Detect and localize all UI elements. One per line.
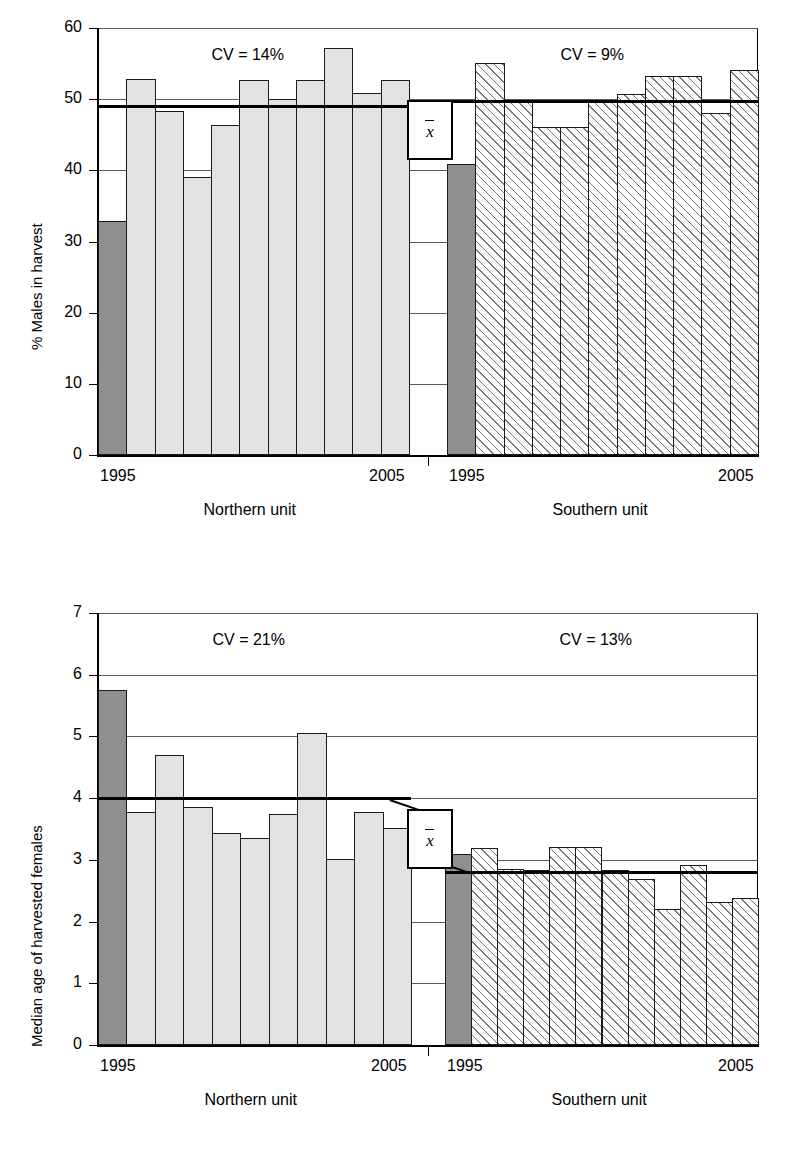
bar (617, 94, 646, 455)
y-axis-tick (89, 613, 99, 614)
y-axis-tick-label: 10 (48, 375, 82, 391)
group-unit-label: Northern unit (204, 501, 297, 519)
bar (98, 690, 127, 1045)
bar (504, 101, 533, 455)
x-axis-end-label: 2005 (718, 467, 754, 485)
x-axis-end-label: 2005 (369, 467, 405, 485)
bar (602, 870, 629, 1045)
bar (269, 814, 298, 1045)
y-axis-label-top: % Males in harvest (28, 223, 45, 350)
bar (588, 101, 617, 455)
chart-panel-males-in-harvest: % Males in harvest 0102030405060CV = 14%… (0, 0, 788, 565)
y-axis-tick-label: 6 (48, 666, 82, 682)
gridline (98, 613, 758, 614)
bar (352, 93, 381, 455)
x-axis-start-label: 1995 (100, 467, 136, 485)
chart-panel-median-age-females: Median age of harvested females 01234567… (0, 585, 788, 1153)
x-axis-end-label: 2005 (371, 1057, 407, 1075)
y-axis-tick (89, 28, 99, 29)
bar (730, 70, 759, 455)
mean-marker-symbol: x (426, 123, 434, 140)
bar (447, 164, 476, 455)
bar (183, 807, 212, 1045)
bar (126, 79, 155, 455)
bar (212, 833, 241, 1045)
bar (268, 99, 297, 455)
y-axis-tick-label: 3 (48, 851, 82, 867)
y-axis-tick-label: 7 (48, 604, 82, 620)
bar (497, 869, 524, 1046)
bar (523, 870, 550, 1045)
gridline (98, 736, 758, 737)
group-separator-tick (428, 457, 429, 466)
mean-marker-symbol: x (426, 832, 434, 849)
bar (296, 80, 325, 455)
y-axis-tick (89, 1045, 99, 1046)
cv-annotation: CV = 13% (560, 631, 632, 649)
cv-annotation: CV = 14% (212, 46, 284, 64)
x-axis-start-label: 1995 (449, 467, 485, 485)
bar (645, 76, 674, 455)
bar (183, 177, 212, 455)
bar (445, 854, 472, 1045)
bar (324, 48, 353, 455)
bar (560, 127, 589, 455)
y-axis-tick-label: 1 (48, 974, 82, 990)
y-axis-tick (89, 675, 99, 676)
bar (211, 125, 240, 455)
bar (673, 76, 702, 455)
gridline (98, 28, 758, 29)
bar (532, 127, 561, 455)
x-axis-end-label: 2005 (718, 1057, 754, 1075)
mean-line (98, 797, 411, 800)
bar (381, 80, 410, 455)
bar (326, 859, 355, 1045)
y-axis-tick-label: 4 (48, 789, 82, 805)
y-axis-tick (89, 455, 99, 456)
bar (575, 847, 602, 1045)
figure-two-panel-bar-charts: % Males in harvest 0102030405060CV = 14%… (0, 0, 788, 1153)
y-axis-tick-label: 0 (48, 446, 82, 462)
x-axis-start-label: 1995 (100, 1057, 136, 1075)
cv-annotation: CV = 9% (561, 46, 625, 64)
y-axis-tick-label: 40 (48, 161, 82, 177)
cv-annotation: CV = 21% (213, 631, 285, 649)
bar (628, 879, 655, 1045)
y-axis-tick-label: 5 (48, 727, 82, 743)
plot-area-top: 0102030405060CV = 14%19952005Northern un… (98, 28, 758, 455)
bar (732, 898, 759, 1045)
y-axis-tick-label: 60 (48, 19, 82, 35)
group-unit-label: Northern unit (205, 1091, 298, 1109)
bar (706, 902, 733, 1045)
y-axis-label-bottom: Median age of harvested females (28, 825, 45, 1047)
bar (239, 80, 268, 455)
y-axis-tick (89, 170, 99, 171)
bar (155, 111, 184, 455)
y-axis-tick-label: 50 (48, 90, 82, 106)
mean-marker-callout: x (407, 100, 453, 160)
bar (654, 909, 681, 1045)
group-separator-tick (428, 1047, 429, 1056)
group-unit-label: Southern unit (552, 1091, 647, 1109)
bar (471, 848, 498, 1045)
plot-area-bottom: 01234567CV = 21%19952005Northern unitCV … (98, 613, 758, 1045)
y-axis-tick-label: 2 (48, 913, 82, 929)
bar (98, 221, 127, 455)
bar (680, 865, 707, 1045)
bar (475, 63, 504, 455)
x-axis-start-label: 1995 (447, 1057, 483, 1075)
y-axis-tick-label: 0 (48, 1036, 82, 1052)
bar (354, 812, 383, 1045)
mean-line (98, 105, 409, 108)
bar (297, 733, 326, 1045)
y-axis-tick (89, 99, 99, 100)
group-unit-label: Southern unit (553, 501, 648, 519)
bar (240, 838, 269, 1045)
bar (549, 847, 576, 1045)
gridline (98, 675, 758, 676)
bar (126, 812, 155, 1045)
mean-line (445, 871, 758, 874)
y-axis-tick-label: 20 (48, 304, 82, 320)
bar (701, 113, 730, 455)
mean-line (447, 100, 758, 103)
